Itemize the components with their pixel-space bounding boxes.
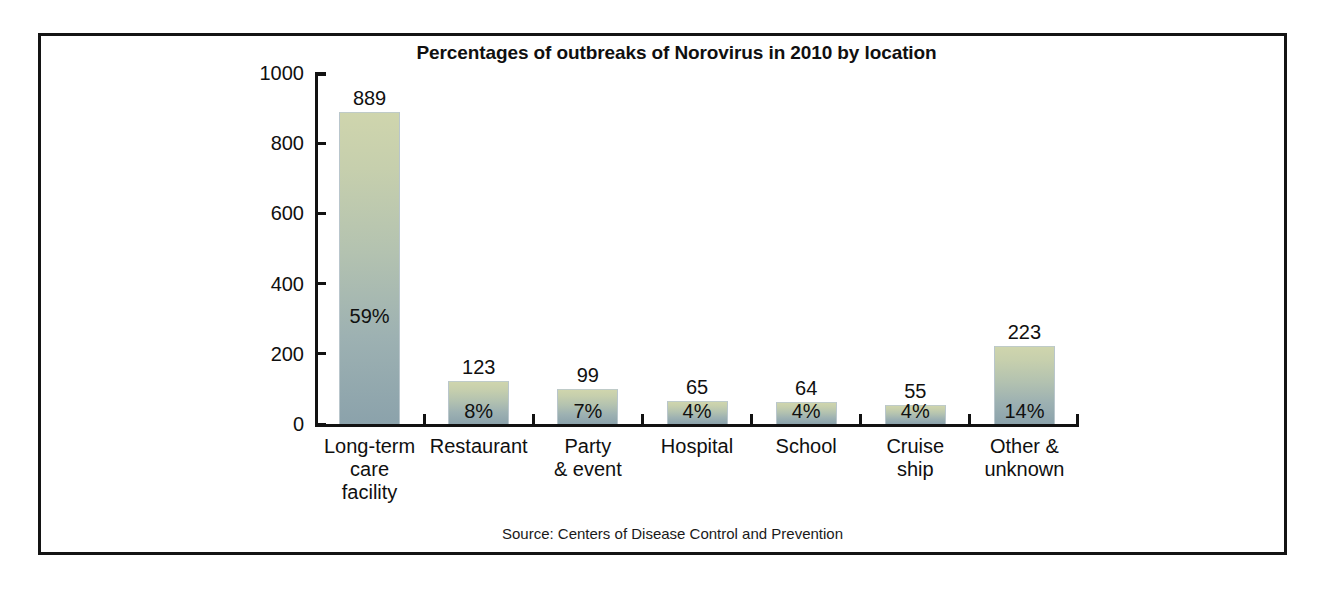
y-axis-tick-label: 400 <box>271 272 304 295</box>
y-axis-tick-label: 1000 <box>260 62 305 85</box>
x-axis-tick <box>859 414 862 427</box>
x-axis-tick <box>532 414 535 427</box>
x-axis-category-label: Other &unknown <box>970 435 1079 481</box>
y-axis-tick: 1000 <box>315 72 326 75</box>
bar-percent-label: 4% <box>683 400 712 423</box>
category-label-line: facility <box>315 481 424 504</box>
bar-slot: 644% <box>776 70 837 424</box>
bar-percent-label: 7% <box>573 400 602 423</box>
bar[interactable]: 1238% <box>448 381 509 424</box>
category-label-line: Cruise <box>861 435 970 458</box>
bar-percent-label: 4% <box>901 400 930 423</box>
bar-slot: 554% <box>885 70 946 424</box>
x-axis-tick <box>641 414 644 427</box>
category-label-line: & event <box>533 458 642 481</box>
category-label-line: School <box>752 435 861 458</box>
x-axis-category-label: Party& event <box>533 435 642 481</box>
y-axis-tick: 400 <box>315 282 326 285</box>
y-axis-tick-label: 800 <box>271 132 304 155</box>
bar-value-label: 123 <box>462 356 495 379</box>
bar-value-label: 223 <box>1008 321 1041 344</box>
y-axis-tick: 600 <box>315 212 326 215</box>
bar[interactable]: 554% <box>885 405 946 424</box>
figure-page: { "figure": { "title": "Percentages of o… <box>0 0 1321 593</box>
bar-slot: 1238% <box>448 70 509 424</box>
category-label-line: Restaurant <box>424 435 533 458</box>
bar-slot: 22314% <box>994 70 1055 424</box>
bar-percent-label: 14% <box>1004 400 1044 423</box>
y-axis-tick-label: 200 <box>271 342 304 365</box>
figure-frame: Percentages of outbreaks of Norovirus in… <box>38 33 1287 555</box>
bar-percent-label: 4% <box>792 400 821 423</box>
x-axis-right-cap <box>1076 414 1079 427</box>
x-axis-category-labels: Long-termcarefacilityRestaurantParty& ev… <box>315 431 1079 511</box>
source-note: Source: Centers of Disease Control and P… <box>41 525 1284 542</box>
bar[interactable]: 22314% <box>994 346 1055 424</box>
plot-area: 02004006008001000 88959%1238%997%654%644… <box>315 73 1079 427</box>
category-label-line: care <box>315 458 424 481</box>
bar[interactable]: 644% <box>776 402 837 424</box>
category-label-line: Party <box>533 435 642 458</box>
y-axis-tick: 0 <box>315 423 326 426</box>
category-label-line: Other & <box>970 435 1079 458</box>
page-title: Percentages of outbreaks of Norovirus in… <box>41 42 1284 64</box>
x-axis-category-label: Restaurant <box>424 435 533 458</box>
bar[interactable]: 654% <box>667 401 728 424</box>
category-label-line: Hospital <box>642 435 751 458</box>
y-axis-tick-label: 0 <box>293 413 304 436</box>
category-label-line: unknown <box>970 458 1079 481</box>
bar-percent-label: 59% <box>350 305 390 328</box>
bar-value-label: 99 <box>577 364 599 387</box>
category-label-line: ship <box>861 458 970 481</box>
bar-value-label: 65 <box>686 376 708 399</box>
x-axis-tick <box>968 414 971 427</box>
y-axis-tick: 800 <box>315 142 326 145</box>
y-axis-tick: 200 <box>315 352 326 355</box>
x-axis-category-label: School <box>752 435 861 458</box>
x-axis-category-label: Cruiseship <box>861 435 970 481</box>
category-label-line: Long-term <box>315 435 424 458</box>
x-axis-category-label: Long-termcarefacility <box>315 435 424 504</box>
bar-slot: 997% <box>557 70 618 424</box>
x-axis-line <box>315 424 1079 427</box>
y-axis-tick-label: 600 <box>271 202 304 225</box>
bar-slot: 654% <box>667 70 728 424</box>
bar-percent-label: 8% <box>464 400 493 423</box>
x-axis-category-label: Hospital <box>642 435 751 458</box>
bar[interactable]: 88959% <box>339 112 400 424</box>
y-axis-line <box>315 73 318 427</box>
bar[interactable]: 997% <box>557 389 618 424</box>
bar-slot: 88959% <box>339 70 400 424</box>
bar-value-label: 64 <box>795 377 817 400</box>
bar-value-label: 889 <box>353 87 386 110</box>
x-axis-tick <box>423 414 426 427</box>
x-axis-tick <box>750 414 753 427</box>
